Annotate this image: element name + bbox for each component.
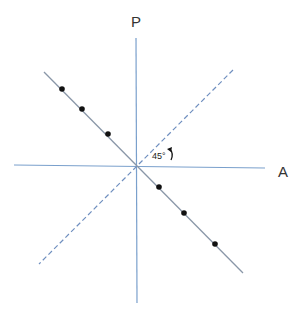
angle-arrow-icon	[167, 147, 172, 160]
horizontal-axis-label: A	[278, 163, 288, 180]
dot	[181, 210, 187, 216]
dot	[79, 106, 85, 112]
dot	[105, 131, 111, 137]
polarization-diagram	[0, 0, 303, 325]
angle-label: 45°	[152, 151, 166, 161]
dot	[156, 184, 162, 190]
dot	[59, 86, 65, 92]
dot	[212, 241, 218, 247]
vertical-axis-label: P	[131, 13, 141, 30]
vertical-axis	[136, 38, 137, 303]
